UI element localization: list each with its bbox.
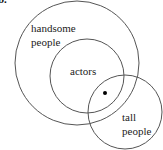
element-point <box>103 91 107 95</box>
handsome-label-line2: people <box>31 35 76 49</box>
handsome-people-circle <box>15 1 139 125</box>
tall-label-line2: people <box>122 124 151 138</box>
venn-diagram: b. handsome people actors tall people <box>0 0 163 150</box>
actors-label: actors <box>70 64 96 78</box>
tall-label-line1: tall <box>122 110 151 124</box>
handsome-label-line1: handsome <box>31 21 76 35</box>
handsome-people-label: handsome people <box>31 21 76 49</box>
figure-label: b. <box>0 0 7 5</box>
tall-people-label: tall people <box>122 110 151 138</box>
